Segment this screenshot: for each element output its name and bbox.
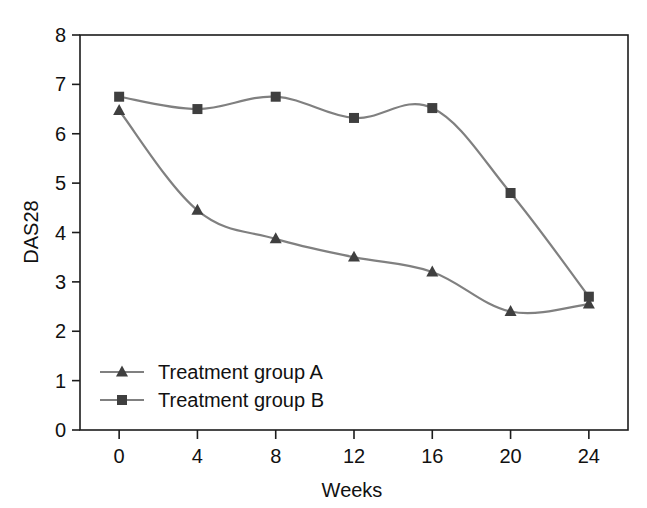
x-tick-label: 12 xyxy=(343,445,365,467)
x-tick-label: 16 xyxy=(421,445,443,467)
y-tick-label: 2 xyxy=(55,320,66,342)
y-tick-label: 7 xyxy=(55,73,66,95)
data-point-marker xyxy=(114,92,124,102)
data-point-marker xyxy=(506,188,516,198)
legend-label: Treatment group B xyxy=(158,389,324,411)
x-tick-label: 8 xyxy=(270,445,281,467)
y-tick-label: 1 xyxy=(55,370,66,392)
das28-line-chart: 012345678 04812162024 DAS28 Weeks Treatm… xyxy=(0,0,647,508)
chart-background xyxy=(0,0,647,508)
y-tick-label: 6 xyxy=(55,123,66,145)
legend-marker-swatch xyxy=(117,395,127,405)
y-tick-label: 4 xyxy=(55,222,66,244)
data-point-marker xyxy=(349,113,359,123)
y-tick-label: 8 xyxy=(55,24,66,46)
chart-figure: 012345678 04812162024 DAS28 Weeks Treatm… xyxy=(0,0,647,508)
x-tick-label: 0 xyxy=(114,445,125,467)
y-tick-label: 5 xyxy=(55,172,66,194)
x-tick-label: 20 xyxy=(499,445,521,467)
y-tick-label: 3 xyxy=(55,271,66,293)
data-point-marker xyxy=(192,104,202,114)
y-axis-title: DAS28 xyxy=(20,200,42,263)
x-tick-label: 4 xyxy=(192,445,203,467)
y-tick-label: 0 xyxy=(55,419,66,441)
x-axis-title: Weeks xyxy=(322,479,383,501)
data-point-marker xyxy=(427,103,437,113)
data-point-marker xyxy=(584,292,594,302)
x-tick-label: 24 xyxy=(578,445,600,467)
legend-label: Treatment group A xyxy=(158,361,324,383)
data-point-marker xyxy=(271,92,281,102)
